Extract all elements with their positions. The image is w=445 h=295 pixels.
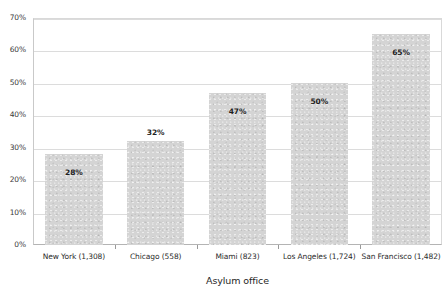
y-tick-label: 40% <box>10 112 26 120</box>
bar[interactable]: 65% <box>372 34 429 245</box>
bar-slot: 50% <box>278 18 360 245</box>
y-tick-label: 60% <box>10 47 26 55</box>
y-tick-label: 10% <box>10 209 26 217</box>
bar[interactable]: 32% <box>127 141 184 245</box>
x-tick <box>115 245 116 249</box>
y-tick-label: 20% <box>10 176 26 184</box>
x-axis: New York (1,308)Chicago (558)Miami (823)… <box>33 245 442 271</box>
bar-slot: 32% <box>115 18 197 245</box>
bar-value-label: 65% <box>372 48 429 57</box>
x-tick-label: Miami (823) <box>216 253 260 261</box>
bars-layer: 28%32%47%50%65% <box>33 18 442 245</box>
x-tick-label: Los Angeles (1,724) <box>283 253 356 261</box>
y-axis: 0%10%20%30%40%50%60%70% <box>0 18 30 245</box>
bar[interactable]: 50% <box>291 83 348 245</box>
x-tick <box>360 245 361 249</box>
bar-value-label: 47% <box>209 107 266 116</box>
bar-slot: 47% <box>197 18 279 245</box>
x-tick-label: New York (1,308) <box>43 253 105 261</box>
x-tick-label: San Francisco (1,482) <box>362 253 441 261</box>
bar-value-label: 28% <box>45 168 102 177</box>
bar-slot: 28% <box>33 18 115 245</box>
x-tick <box>197 245 198 249</box>
bar-chart: 0%10%20%30%40%50%60%70% 28%32%47%50%65% … <box>0 0 445 295</box>
y-tick-label: 0% <box>14 241 26 249</box>
x-tick <box>278 245 279 249</box>
bar[interactable]: 47% <box>209 93 266 245</box>
y-tick-label: 30% <box>10 144 26 152</box>
bar-slot: 65% <box>360 18 442 245</box>
bar-value-label: 32% <box>127 128 184 137</box>
x-axis-title: Asylum office <box>33 275 442 286</box>
clipped-chart-title <box>33 0 442 3</box>
y-tick-label: 70% <box>10 14 26 22</box>
x-tick-label: Chicago (558) <box>130 253 181 261</box>
bar-value-label: 50% <box>291 97 348 106</box>
y-tick-label: 50% <box>10 79 26 87</box>
bar[interactable]: 28% <box>45 154 102 245</box>
